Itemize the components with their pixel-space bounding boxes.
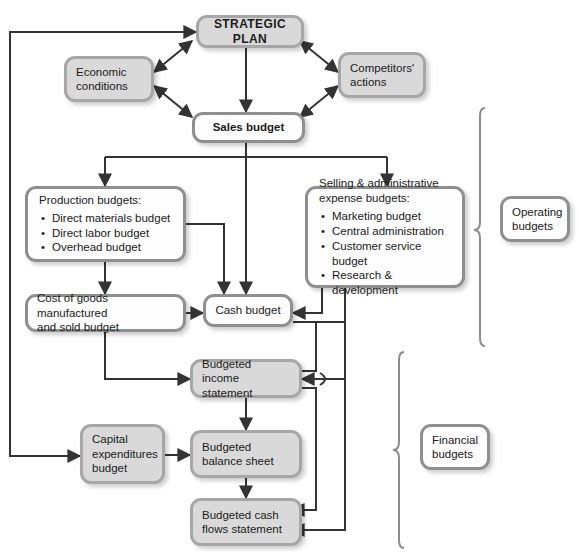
node-cogs-budget[interactable]: Cost of goods manufactured and sold budg…: [25, 294, 186, 332]
node-selling-admin-budgets[interactable]: Selling & administrative expense budgets…: [305, 186, 465, 288]
node-financial-budgets-label: Financial budgets: [423, 433, 487, 462]
node-budgeted-balance-sheet[interactable]: Budgeted balance sheet: [190, 430, 302, 478]
node-cogs-budget-label: Cost of goods manufactured and sold budg…: [28, 291, 183, 335]
arrow-competitors-to-strategic: [300, 41, 338, 72]
arrow-cash-to-cashflows: [292, 322, 345, 530]
node-budgeted-balance-sheet-label: Budgeted balance sheet: [193, 440, 299, 469]
node-capital-expenditures-budget[interactable]: Capital expenditures budget: [80, 424, 165, 484]
list-item: Central administration: [332, 224, 452, 239]
node-economic-conditions[interactable]: Economic conditions: [64, 56, 154, 102]
node-competitors-actions[interactable]: Competitors' actions: [338, 52, 426, 98]
node-strategic-plan[interactable]: STRATEGIC PLAN: [196, 15, 304, 48]
node-capital-expenditures-budget-label: Capital expenditures budget: [83, 432, 162, 476]
arrow-economic-to-sales: [154, 86, 192, 117]
list-item: Marketing budget: [332, 209, 452, 224]
node-operating-budgets-label: Operating budgets: [503, 205, 567, 234]
node-economic-conditions-label: Economic conditions: [67, 65, 151, 94]
node-production-budgets-list: Direct materials budget Direct labor bud…: [28, 211, 183, 255]
arrow-production-to-cash: [186, 224, 224, 294]
node-cash-budget[interactable]: Cash budget: [203, 294, 293, 327]
node-budgeted-income-statement[interactable]: Budgeted income statement: [190, 359, 302, 398]
arrow-cogs-to-income: [105, 332, 190, 379]
node-budgeted-income-statement-label: Budgeted income statement: [193, 357, 299, 401]
node-sales-budget[interactable]: Sales budget: [192, 112, 305, 143]
node-competitors-actions-label: Competitors' actions: [341, 61, 423, 90]
arrow-economic-to-strategic: [154, 41, 192, 72]
node-production-budgets-lead: Production budgets:: [28, 193, 183, 208]
node-budgeted-cash-flows-statement[interactable]: Budgeted cash flows statement: [190, 498, 302, 546]
node-financial-budgets[interactable]: Financial budgets: [420, 424, 490, 470]
list-item: Overhead budget: [52, 240, 173, 255]
list-item: Direct labor budget: [52, 226, 173, 241]
node-production-budgets[interactable]: Production budgets: Direct materials bud…: [25, 186, 186, 262]
list-item: Direct materials budget: [52, 211, 173, 226]
node-selling-admin-budgets-list: Marketing budget Central administration …: [308, 209, 462, 298]
budget-flowchart-diagram: STRATEGIC PLAN Economic conditions Compe…: [0, 0, 581, 560]
list-item: Customer service budget: [332, 239, 452, 269]
node-strategic-plan-label: STRATEGIC PLAN: [199, 17, 301, 46]
brace-operating-budgets: [474, 108, 485, 346]
arrow-selling-to-income: [302, 288, 345, 379]
node-cash-budget-label: Cash budget: [206, 303, 289, 318]
brace-financial-budgets: [393, 352, 404, 548]
node-budgeted-cash-flows-statement-label: Budgeted cash flows statement: [193, 508, 299, 537]
list-item: Research & development: [332, 268, 452, 298]
node-selling-admin-budgets-lead: Selling & administrative expense budgets…: [308, 176, 462, 206]
node-sales-budget-label: Sales budget: [204, 120, 294, 135]
node-operating-budgets[interactable]: Operating budgets: [500, 196, 570, 242]
arrow-competitors-to-sales: [300, 86, 338, 117]
